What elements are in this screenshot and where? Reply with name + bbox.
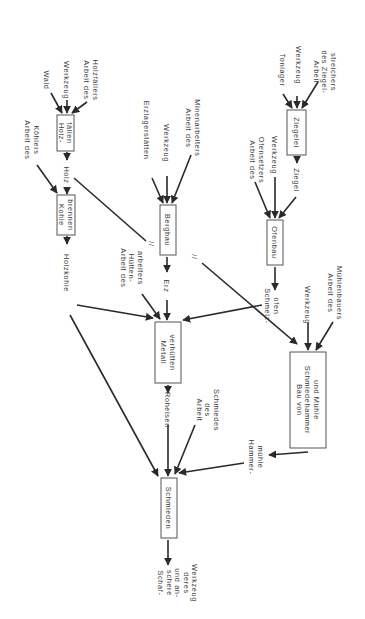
label-ofensetzer-line: Ofensetzers	[257, 137, 266, 183]
label-werkzeug1-line: Werkzeug	[62, 61, 71, 99]
label-ziegelstr-line: Arbeit	[312, 61, 321, 84]
edge-wald	[51, 93, 62, 113]
node-bau-line: Bau von	[295, 384, 304, 415]
label-ziegelstr-line: des Ziegel-	[320, 50, 329, 93]
label-huetten-line: Hütten-	[127, 254, 136, 282]
label-erz-line: Erz	[162, 280, 171, 293]
label-schmied-line: des	[203, 403, 212, 417]
node-bau-line: Schmiedehammer	[303, 366, 312, 434]
edge-minen	[172, 155, 191, 203]
label-koehler: Arbeit desKöhlers	[23, 120, 41, 159]
edge-erzlager	[152, 178, 163, 203]
label-holzkohle-line: Holzkohle	[62, 254, 71, 292]
node-ofenbau: Ofenbau	[270, 226, 279, 259]
edge-tonlager	[283, 94, 292, 108]
label-hammer-line: Hammer-	[247, 440, 256, 475]
label-minen: Arbeit desMinenarbeiters	[184, 99, 202, 156]
label-werkzeug5-line: Werkzeug	[303, 286, 312, 324]
label-schmied-line: Arbeit	[195, 399, 204, 422]
node-metall-line: verhütten	[168, 334, 177, 370]
label-output: Schaf-schereund an-deresWerkzeug	[156, 564, 199, 602]
edge-hammer-schmieden	[179, 463, 244, 473]
label-output-line: schere	[165, 570, 174, 596]
node-holzfaellen: Holz-fällen	[57, 122, 75, 143]
edge-huetten	[142, 294, 160, 319]
label-roheisen: Roheisen	[163, 392, 172, 428]
label-tonlager: Tonlager	[278, 53, 287, 86]
node-holzfaellen-line: Holz-	[57, 123, 66, 143]
edge-erz-bau	[202, 263, 297, 344]
node-schmieden: Schmieden	[164, 487, 173, 529]
label-werkzeug4: Werkzeug	[270, 136, 279, 174]
label-schmied-line: Schmiedes	[212, 389, 221, 431]
label-ofensetzer-line: Arbeit des	[248, 140, 257, 179]
label-holzfaeller: Arbeit desHolzfällers	[82, 59, 100, 100]
label-huetten-line: Arbeit des	[119, 248, 128, 287]
label-holzkohle: Holzkohle	[62, 254, 71, 292]
flow-break-mark: //	[147, 241, 156, 247]
node-bergbau: Bergbau	[163, 214, 172, 246]
edge-ziegel-ofenbau	[279, 197, 296, 218]
edge-koehler	[37, 165, 57, 193]
node-ziegelei: Ziegelei	[292, 117, 301, 148]
label-werkzeug4-line: Werkzeug	[270, 136, 279, 174]
edge-muehlenbauer	[316, 322, 333, 350]
label-holzfaeller-line: Arbeit des	[82, 60, 91, 99]
label-roheisen-line: Roheisen	[163, 392, 172, 428]
label-output-line: Werkzeug	[190, 564, 199, 602]
node-metall-line: Metall	[159, 341, 168, 364]
label-muehlenbauer-line: Arbeit des	[326, 273, 335, 312]
label-ofensetzer: Arbeit desOfensetzers	[248, 137, 266, 183]
label-ziegel: Ziegel	[292, 168, 301, 192]
label-holz: Holz	[62, 166, 71, 183]
label-ziegelstr-line: streichers	[329, 53, 338, 91]
edge-ziegelstr	[302, 82, 318, 108]
label-holz-line: Holz	[62, 166, 71, 183]
production-diagram: Holz-fällenKohlebrennenBergbauZiegeleiOf…	[0, 0, 365, 619]
label-huetten-line: arbeiters	[136, 251, 145, 285]
label-erz: Erz	[162, 280, 171, 293]
label-werkzeug3: Werkzeug	[294, 46, 303, 84]
edge-ofensetzer	[255, 182, 270, 218]
label-output-line: und an-	[173, 568, 182, 597]
label-tonlager-line: Tonlager	[278, 53, 287, 86]
node-bergbau-line: Bergbau	[163, 214, 172, 246]
label-output-line: deres	[182, 572, 191, 594]
edge-holz-bergbau	[74, 178, 146, 241]
label-koehler-line: Köhlers	[32, 125, 41, 154]
node-kohle-line: Kohle	[57, 204, 66, 226]
label-erzlager-line: Erzlagerstätten	[142, 101, 151, 160]
edge-schmied	[175, 425, 195, 474]
label-werkzeug1: Werkzeug	[62, 61, 71, 99]
label-hammer-line: mühle	[256, 445, 265, 468]
label-output-line: Schaf-	[156, 571, 165, 596]
label-schmelzofen-line: ofen	[272, 298, 281, 315]
label-werkzeug2-line: Werkzeug	[162, 124, 171, 162]
label-holzfaeller-line: Holzfällers	[91, 59, 100, 100]
edge-bau-hammer	[269, 452, 308, 455]
label-werkzeug3-line: Werkzeug	[294, 46, 303, 84]
label-hammer: Hammer-mühle	[247, 440, 265, 475]
node-bau-line: und Mühle	[312, 380, 321, 420]
edge-schmelz-metall	[183, 305, 262, 320]
node-kohle-line: brennen	[66, 199, 75, 230]
label-muehlenbauer: Arbeit desMühlenbauers	[326, 266, 344, 320]
edge-holzkohle-metall	[77, 305, 153, 318]
label-wald: Wald	[42, 71, 51, 90]
label-koehler-line: Arbeit des	[23, 120, 32, 159]
node-holzfaellen-line: fällen	[65, 122, 74, 143]
flow-break-mark: //	[190, 254, 199, 260]
label-schmied: ArbeitdesSchmiedes	[195, 389, 221, 431]
label-muehlenbauer-line: Mühlenbauers	[335, 266, 344, 320]
label-schmelzofen-line: Schmelz-	[263, 288, 272, 324]
label-minen-line: Minenarbeiters	[193, 99, 202, 156]
label-werkzeug2: Werkzeug	[162, 124, 171, 162]
label-werkzeug5: Werkzeug	[303, 286, 312, 324]
label-ziegel-line: Ziegel	[292, 168, 301, 192]
label-minen-line: Arbeit des	[184, 108, 193, 147]
node-ofenbau-line: Ofenbau	[270, 226, 279, 259]
label-schmelzofen: Schmelz-ofen	[263, 288, 281, 324]
label-wald-line: Wald	[42, 71, 51, 90]
edge-holzkohle-schmieden	[70, 315, 158, 476]
node-schmieden-line: Schmieden	[164, 487, 173, 529]
